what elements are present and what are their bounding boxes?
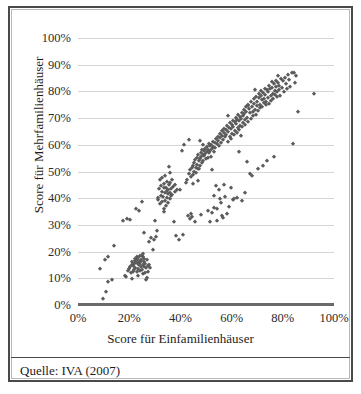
- source-note: Quelle: IVA (2007): [20, 363, 120, 379]
- data-point: [170, 177, 175, 182]
- data-point: [234, 195, 239, 200]
- data-point: [265, 158, 270, 163]
- data-point: [162, 210, 167, 215]
- data-point: [154, 229, 159, 234]
- scatter-plot: 0%10%20%30%40%50%60%70%80%90%100% 0%20%4…: [78, 38, 334, 305]
- data-point: [243, 190, 248, 195]
- x-tick-label: 40%: [169, 311, 192, 326]
- data-point: [111, 244, 116, 249]
- gridline: [78, 91, 334, 92]
- data-point: [181, 232, 186, 237]
- data-point: [197, 138, 202, 143]
- y-axis-label: Score für Mehrfamilienhäuser: [31, 15, 47, 255]
- data-point: [190, 182, 195, 187]
- data-point: [216, 188, 221, 193]
- data-point: [186, 138, 191, 143]
- data-point: [225, 211, 230, 216]
- data-point: [208, 154, 213, 159]
- y-tick-label: 0%: [54, 298, 71, 313]
- chart-area: 0%10%20%30%40%50%60%70%80%90%100% 0%20%4…: [11, 9, 350, 354]
- data-point: [237, 149, 242, 154]
- data-point: [260, 164, 265, 169]
- data-point: [296, 110, 301, 115]
- data-point: [239, 199, 244, 204]
- data-point: [190, 214, 195, 219]
- gridline: [78, 252, 334, 253]
- gridline: [78, 118, 334, 119]
- gridline: [78, 172, 334, 173]
- y-tick-label: 20%: [48, 244, 71, 259]
- data-point: [238, 134, 243, 139]
- source-separator: [11, 357, 350, 358]
- figure-container: 0%10%20%30%40%50%60%70%80%90%100% 0%20%4…: [0, 0, 361, 394]
- data-point: [100, 297, 105, 302]
- data-point: [103, 290, 108, 295]
- data-point: [198, 213, 203, 218]
- y-tick-label: 80%: [48, 84, 71, 99]
- data-point: [292, 80, 297, 85]
- data-point: [288, 85, 293, 90]
- data-point: [293, 74, 298, 79]
- data-point: [222, 182, 227, 187]
- y-tick-label: 90%: [48, 57, 71, 72]
- data-point: [139, 199, 144, 204]
- x-tick-label: 100%: [319, 311, 348, 326]
- data-point: [212, 193, 217, 198]
- y-tick-label: 30%: [48, 217, 71, 232]
- data-point: [180, 148, 185, 153]
- x-tick-label: 0%: [70, 311, 87, 326]
- gridline: [78, 278, 334, 279]
- data-point: [228, 185, 233, 190]
- data-point: [129, 276, 134, 281]
- data-point: [271, 154, 276, 159]
- gridline: [78, 198, 334, 199]
- data-point: [207, 219, 212, 224]
- x-tick-label: 80%: [271, 311, 294, 326]
- data-point: [196, 179, 201, 184]
- data-point: [311, 91, 316, 96]
- data-point: [229, 137, 234, 142]
- data-point: [178, 188, 183, 193]
- y-tick-label: 70%: [48, 111, 71, 126]
- data-point: [127, 218, 132, 223]
- data-point: [250, 173, 255, 178]
- data-point: [215, 218, 220, 223]
- gridline: [78, 65, 334, 66]
- x-tick-label: 60%: [220, 311, 243, 326]
- gridline: [78, 38, 334, 39]
- data-point: [163, 174, 168, 179]
- x-axis-label: Score für Einfamilienhäuser: [11, 331, 350, 347]
- data-point: [185, 178, 190, 183]
- data-point: [278, 93, 283, 98]
- data-point: [142, 231, 147, 236]
- data-point: [287, 78, 292, 83]
- y-tick-label: 10%: [48, 271, 71, 286]
- y-tick-label: 50%: [48, 164, 71, 179]
- y-tick-label: 60%: [48, 137, 71, 152]
- data-point: [245, 159, 250, 164]
- data-point: [176, 238, 181, 243]
- x-axis-line: [78, 303, 334, 306]
- gridline: [78, 225, 334, 226]
- data-point: [97, 267, 102, 272]
- data-point: [153, 219, 158, 224]
- data-point: [192, 220, 197, 225]
- x-tick-label: 20%: [118, 311, 141, 326]
- data-point: [137, 209, 142, 214]
- data-point: [226, 205, 231, 210]
- y-tick-label: 40%: [48, 191, 71, 206]
- data-point: [166, 164, 171, 169]
- data-point: [173, 182, 178, 187]
